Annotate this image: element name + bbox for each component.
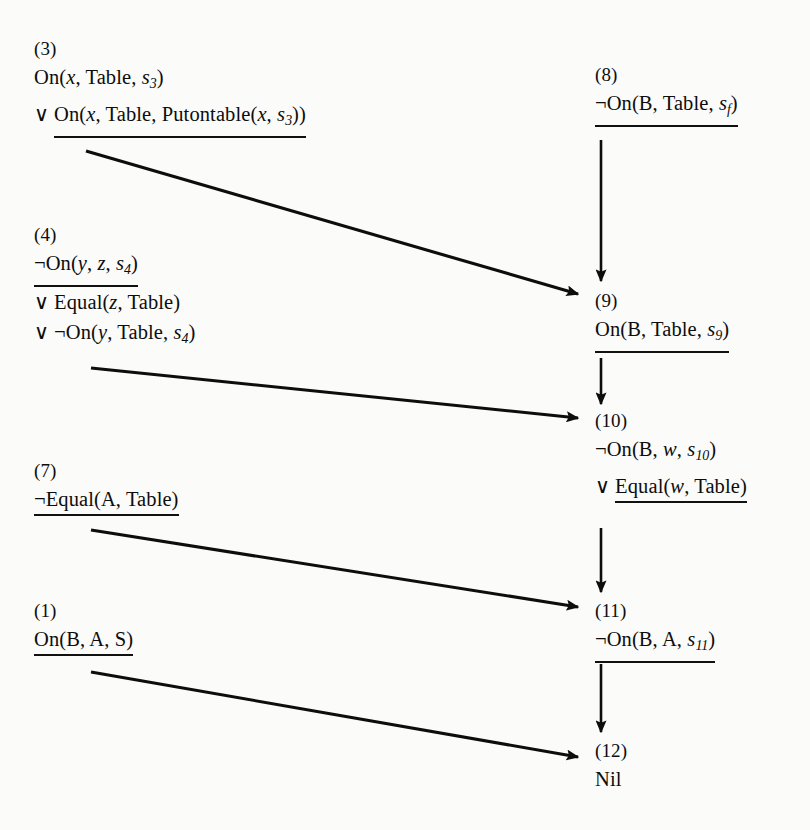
clause-literal: On(B, A, S) bbox=[34, 624, 133, 656]
clause-node-12: (12) Nil bbox=[595, 738, 627, 794]
clause-tag-10: (10) bbox=[595, 408, 747, 434]
edge-4-to-10 bbox=[91, 368, 578, 418]
clause-literal: On(x, Table, s3) bbox=[34, 62, 306, 99]
disjunction-operator: ∨ bbox=[595, 471, 610, 501]
clause-tag-3: (3) bbox=[34, 36, 306, 62]
clause-node-1: (1) On(B, A, S) bbox=[34, 598, 133, 656]
edge-1-to-12 bbox=[91, 672, 578, 757]
disjunction-operator: ∨ bbox=[34, 99, 49, 129]
clause-literal: ¬On(B, A, s11) bbox=[595, 624, 715, 663]
clause-literal: ∨¬On(y, Table, s4) bbox=[34, 317, 195, 354]
edge-7-to-11 bbox=[91, 530, 578, 607]
nil-label: Nil bbox=[595, 768, 622, 790]
disjunction-operator: ∨ bbox=[34, 287, 49, 317]
clause-literal: ¬On(B, Table, sf) bbox=[595, 88, 738, 127]
clause-tag-4: (4) bbox=[34, 222, 195, 248]
clause-literal: ¬On(B, w, s10) bbox=[595, 434, 747, 471]
clause-literal: ∨Equal(w, Table) bbox=[595, 471, 747, 503]
clause-node-11: (11) ¬On(B, A, s11) bbox=[595, 598, 715, 663]
clause-node-9: (9) On(B, Table, s9) bbox=[595, 288, 729, 353]
clause-tag-11: (11) bbox=[595, 598, 715, 624]
clause-tag-1: (1) bbox=[34, 598, 133, 624]
clause-literal: Nil bbox=[595, 764, 627, 794]
clause-tag-9: (9) bbox=[595, 288, 729, 314]
clause-literal: ∨On(x, Table, Putontable(x, s3)) bbox=[34, 99, 306, 138]
resolution-proof-figure: (3) On(x, Table, s3) ∨On(x, Table, Puton… bbox=[0, 0, 810, 830]
clause-tag-12: (12) bbox=[595, 738, 627, 764]
clause-literal: ¬Equal(A, Table) bbox=[34, 484, 179, 516]
clause-node-8: (8) ¬On(B, Table, sf) bbox=[595, 62, 738, 127]
clause-literal: ¬On(y, z, s4) bbox=[34, 248, 195, 287]
clause-tag-8: (8) bbox=[595, 62, 738, 88]
clause-node-7: (7) ¬Equal(A, Table) bbox=[34, 458, 179, 516]
disjunction-operator: ∨ bbox=[34, 317, 49, 347]
clause-node-10: (10) ¬On(B, w, s10) ∨Equal(w, Table) bbox=[595, 408, 747, 503]
clause-tag-7: (7) bbox=[34, 458, 179, 484]
clause-literal: ∨Equal(z, Table) bbox=[34, 287, 195, 317]
clause-node-4: (4) ¬On(y, z, s4) ∨Equal(z, Table) ∨¬On(… bbox=[34, 222, 195, 354]
clause-node-3: (3) On(x, Table, s3) ∨On(x, Table, Puton… bbox=[34, 36, 306, 138]
clause-literal: On(B, Table, s9) bbox=[595, 314, 729, 353]
